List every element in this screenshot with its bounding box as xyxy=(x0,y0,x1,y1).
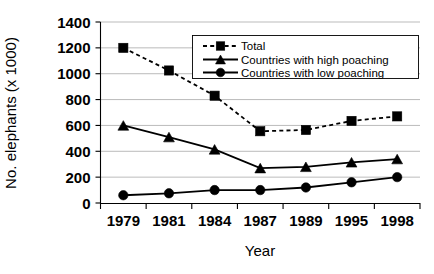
data-point-marker xyxy=(256,185,265,194)
data-point-marker xyxy=(119,191,128,200)
legend-swatch-marker xyxy=(216,68,225,77)
data-point-marker xyxy=(164,66,173,75)
data-point-marker xyxy=(164,189,173,198)
y-tick-label: 0 xyxy=(82,195,90,212)
data-point-marker xyxy=(164,132,175,142)
y-axis-tick-labels: 0200400600800100012001400 xyxy=(57,14,90,212)
y-axis-title: No. elephants (x 1000) xyxy=(2,37,19,189)
y-tick-label: 600 xyxy=(65,117,90,134)
x-axis-title: Year xyxy=(245,242,275,259)
data-point-marker xyxy=(301,183,310,192)
x-tick-label: 1995 xyxy=(335,212,368,229)
y-tick-label: 1000 xyxy=(57,65,90,82)
y-tick-label: 800 xyxy=(65,91,90,108)
x-tick-label: 1981 xyxy=(152,212,185,229)
chart-legend: TotalCountries with high poachingCountri… xyxy=(193,36,419,79)
data-point-marker xyxy=(393,112,402,121)
chart-figure: 0200400600800100012001400 19791981198419… xyxy=(0,0,434,274)
line-chart: 0200400600800100012001400 19791981198419… xyxy=(0,0,434,274)
data-point-marker xyxy=(347,116,356,125)
legend-label: Countries with high poaching xyxy=(241,54,389,66)
y-tick-label: 400 xyxy=(65,143,90,160)
x-tick-label: 1984 xyxy=(198,212,232,229)
data-point-marker xyxy=(210,185,219,194)
x-tick-label: 1979 xyxy=(107,212,140,229)
data-point-marker xyxy=(256,127,265,136)
y-tick-label: 200 xyxy=(65,169,90,186)
data-point-marker xyxy=(210,91,219,100)
x-tick-label: 1989 xyxy=(289,212,322,229)
y-tick-label: 1200 xyxy=(57,39,90,56)
legend-label: Total xyxy=(241,40,265,52)
x-axis-tick-labels: 1979198119841987198919951998 xyxy=(107,212,414,229)
data-point-marker xyxy=(301,125,310,134)
legend-label: Countries with low poaching xyxy=(241,67,384,79)
data-point-marker xyxy=(209,145,220,155)
x-tick-label: 1998 xyxy=(380,212,413,229)
data-point-marker xyxy=(392,172,401,181)
legend-swatch-marker xyxy=(216,42,224,50)
data-point-marker xyxy=(119,43,128,52)
data-point-marker xyxy=(347,178,356,187)
x-tick-label: 1987 xyxy=(244,212,277,229)
y-tick-label: 1400 xyxy=(57,14,90,31)
y-axis-tick-marks xyxy=(96,22,101,203)
